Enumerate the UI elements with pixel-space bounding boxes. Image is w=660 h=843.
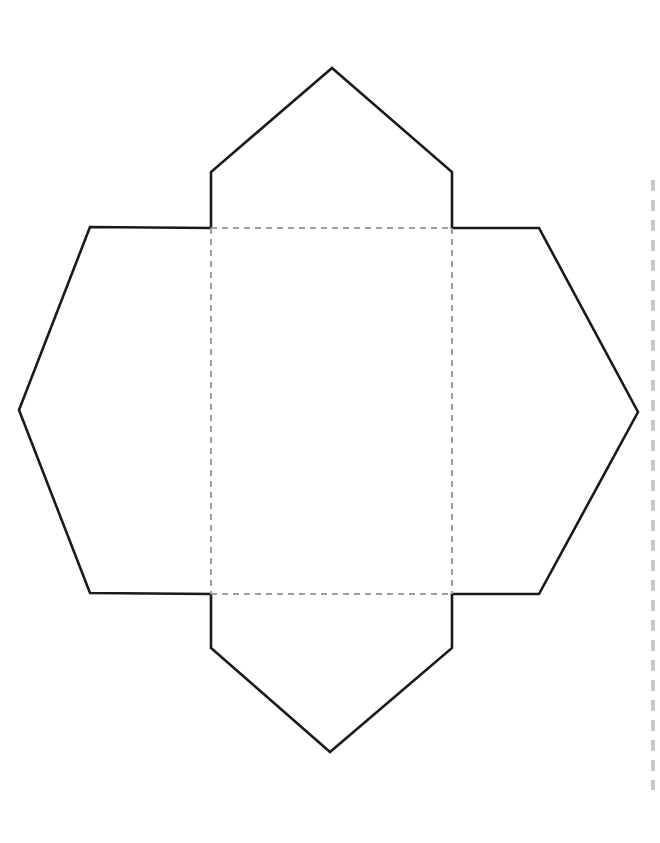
envelope-template-drawing (0, 0, 660, 843)
template-page (0, 0, 660, 843)
panel-center[interactable] (211, 228, 452, 594)
